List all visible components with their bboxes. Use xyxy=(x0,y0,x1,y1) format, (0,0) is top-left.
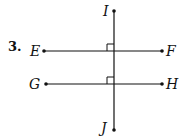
diagram-svg: 3. E F G H I J xyxy=(0,0,185,139)
point-h xyxy=(160,82,164,86)
point-i xyxy=(112,9,116,13)
label-e: E xyxy=(29,43,40,59)
label-g: G xyxy=(29,76,40,92)
point-g xyxy=(44,82,48,86)
point-f xyxy=(160,49,164,53)
geometry-figure: 3. E F G H I J xyxy=(0,0,185,139)
point-e xyxy=(42,49,46,53)
point-j xyxy=(112,128,116,132)
label-j: J xyxy=(98,120,108,136)
right-angle-mark-bottom xyxy=(107,77,114,84)
label-h: H xyxy=(165,76,179,92)
problem-number: 3. xyxy=(8,39,22,54)
label-i: I xyxy=(102,3,109,19)
label-f: F xyxy=(165,43,177,59)
right-angle-mark-top xyxy=(107,44,114,51)
